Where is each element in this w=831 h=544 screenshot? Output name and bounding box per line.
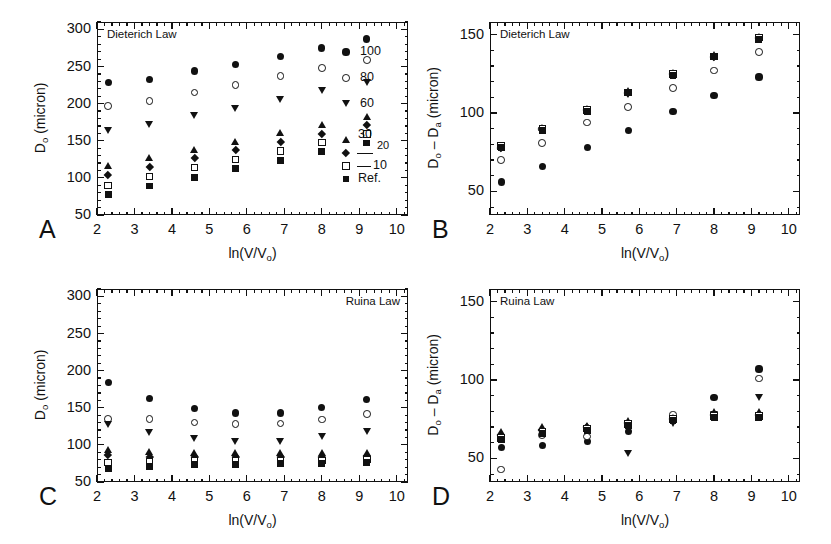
x-minor-tick bbox=[699, 479, 700, 483]
data-point bbox=[498, 436, 505, 443]
data-point bbox=[755, 394, 763, 401]
x-minor-tick bbox=[646, 479, 647, 483]
x-major-tick bbox=[564, 475, 565, 482]
y-major-tick bbox=[490, 379, 497, 380]
y-minor-tick bbox=[490, 332, 494, 333]
x-minor-tick bbox=[796, 479, 797, 483]
x-major-tick bbox=[527, 475, 528, 482]
x-minor-tick-top bbox=[504, 289, 505, 293]
x-major-tick-top bbox=[601, 289, 602, 296]
x-minor-tick-top bbox=[781, 289, 782, 293]
y-minor-tick bbox=[490, 411, 494, 412]
x-minor-tick-top bbox=[699, 289, 700, 293]
x-minor-tick-top bbox=[519, 289, 520, 293]
x-minor-tick bbox=[542, 479, 543, 483]
y-minor-tick bbox=[490, 348, 494, 349]
x-minor-tick bbox=[728, 479, 729, 483]
x-minor-tick-top bbox=[616, 289, 617, 293]
data-point bbox=[584, 427, 591, 434]
x-minor-tick bbox=[631, 479, 632, 483]
x-major-tick-top bbox=[489, 289, 490, 296]
y-minor-tick-right bbox=[797, 395, 801, 396]
y-major-tick-right bbox=[793, 301, 800, 302]
x-minor-tick bbox=[758, 479, 759, 483]
y-minor-tick-right bbox=[797, 426, 801, 427]
data-point bbox=[711, 414, 718, 421]
x-minor-tick-top bbox=[497, 289, 498, 293]
x-minor-tick bbox=[594, 479, 595, 483]
x-minor-tick-top bbox=[542, 289, 543, 293]
y-major-tick bbox=[490, 458, 497, 459]
y-minor-tick bbox=[490, 442, 494, 443]
x-minor-tick-top bbox=[579, 289, 580, 293]
y-minor-tick-right bbox=[797, 474, 801, 475]
x-minor-tick-top bbox=[572, 289, 573, 293]
x-minor-tick-top bbox=[706, 289, 707, 293]
x-major-tick-top bbox=[713, 289, 714, 296]
x-minor-tick-top bbox=[661, 289, 662, 293]
x-minor-tick bbox=[624, 479, 625, 483]
plot-frame-d bbox=[490, 289, 800, 482]
x-tick-label: 2 bbox=[470, 488, 510, 504]
x-tick-label: 9 bbox=[731, 488, 771, 504]
x-major-tick bbox=[601, 475, 602, 482]
x-major-tick bbox=[713, 475, 714, 482]
y-major-tick-right bbox=[793, 379, 800, 380]
data-point bbox=[624, 450, 632, 457]
y-minor-tick-right bbox=[797, 442, 801, 443]
panel-title-d: Ruina Law bbox=[500, 295, 554, 307]
x-minor-tick bbox=[549, 479, 550, 483]
x-minor-tick bbox=[616, 479, 617, 483]
data-point bbox=[755, 414, 762, 421]
x-minor-tick-top bbox=[758, 289, 759, 293]
x-minor-tick-top bbox=[549, 289, 550, 293]
x-minor-tick bbox=[579, 479, 580, 483]
x-minor-tick bbox=[706, 479, 707, 483]
x-minor-tick-top bbox=[587, 289, 588, 293]
x-minor-tick bbox=[661, 479, 662, 483]
y-tick-label: 100 bbox=[442, 371, 484, 387]
x-tick-label: 10 bbox=[769, 488, 809, 504]
x-axis-label-d: ln(V/Vo) bbox=[595, 512, 695, 530]
x-minor-tick-top bbox=[534, 289, 535, 293]
x-major-tick bbox=[788, 475, 789, 482]
x-minor-tick-top bbox=[728, 289, 729, 293]
x-minor-tick bbox=[743, 479, 744, 483]
x-major-tick-top bbox=[639, 289, 640, 296]
x-major-tick bbox=[639, 475, 640, 482]
x-minor-tick bbox=[512, 479, 513, 483]
x-minor-tick bbox=[572, 479, 573, 483]
x-minor-tick bbox=[721, 479, 722, 483]
x-minor-tick bbox=[504, 479, 505, 483]
y-minor-tick-right bbox=[797, 348, 801, 349]
x-minor-tick bbox=[736, 479, 737, 483]
x-major-tick bbox=[751, 475, 752, 482]
y-minor-tick-right bbox=[797, 332, 801, 333]
x-minor-tick-top bbox=[557, 289, 558, 293]
x-minor-tick bbox=[497, 479, 498, 483]
x-minor-tick-top bbox=[669, 289, 670, 293]
y-tick-label: 50 bbox=[442, 449, 484, 465]
x-minor-tick-top bbox=[721, 289, 722, 293]
x-minor-tick bbox=[654, 479, 655, 483]
data-point bbox=[670, 417, 677, 424]
y-axis-label-d: Do – Da (micron) bbox=[425, 314, 443, 454]
x-minor-tick bbox=[519, 479, 520, 483]
y-tick-label: 150 bbox=[442, 293, 484, 309]
data-point bbox=[755, 375, 763, 383]
x-tick-label: 5 bbox=[582, 488, 622, 504]
data-point bbox=[710, 394, 717, 401]
y-minor-tick bbox=[490, 426, 494, 427]
x-minor-tick-top bbox=[691, 289, 692, 293]
x-tick-label: 6 bbox=[619, 488, 659, 504]
x-minor-tick-top bbox=[684, 289, 685, 293]
x-minor-tick bbox=[773, 479, 774, 483]
x-minor-tick bbox=[781, 479, 782, 483]
x-minor-tick-top bbox=[743, 289, 744, 293]
y-minor-tick-right bbox=[797, 317, 801, 318]
x-major-tick-top bbox=[676, 289, 677, 296]
y-minor-tick-right bbox=[797, 411, 801, 412]
panel-letter-d: D bbox=[432, 484, 450, 509]
x-tick-label: 3 bbox=[507, 488, 547, 504]
x-minor-tick-top bbox=[624, 289, 625, 293]
